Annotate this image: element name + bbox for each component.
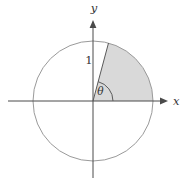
- y-axis-label: y: [90, 1, 98, 15]
- radius-label: 1: [85, 53, 92, 67]
- x-axis-label: x: [173, 94, 180, 108]
- figure-unit-circle: y x 1 θ: [0, 0, 189, 194]
- unit-circle-diagram: y x 1 θ: [0, 0, 189, 194]
- angle-theta-label: θ: [97, 85, 104, 97]
